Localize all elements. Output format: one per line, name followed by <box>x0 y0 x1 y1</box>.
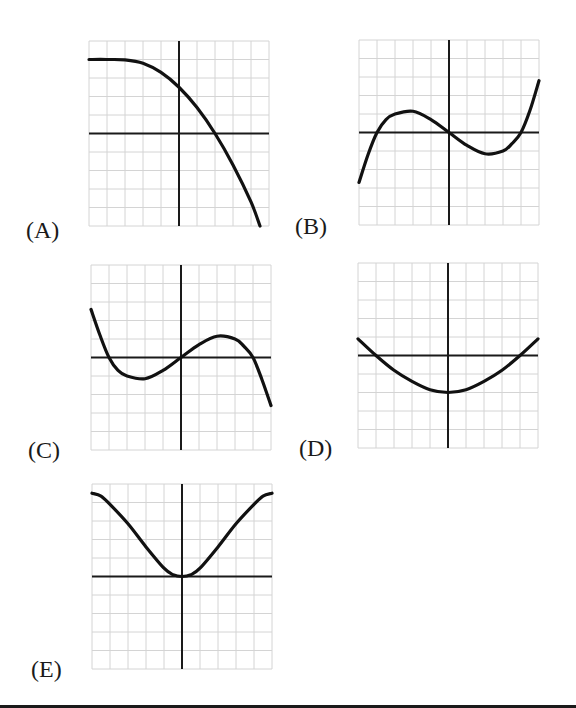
graph-b-plot <box>359 40 539 225</box>
graph-a <box>89 41 269 226</box>
graph-c-label: (C) <box>28 438 60 462</box>
graph-d <box>358 263 538 448</box>
graph-c-plot <box>91 265 271 450</box>
graph-c <box>91 265 271 450</box>
graph-e <box>92 484 272 669</box>
graph-a-plot <box>89 41 269 226</box>
graph-b-label: (B) <box>295 214 327 238</box>
graph-e-plot <box>92 484 272 669</box>
graph-a-label: (A) <box>26 218 59 242</box>
function-curve <box>89 59 260 226</box>
graph-b <box>359 40 539 225</box>
graph-d-plot <box>358 263 538 448</box>
graph-e-label: (E) <box>31 657 62 681</box>
graph-d-label: (D) <box>299 436 332 460</box>
